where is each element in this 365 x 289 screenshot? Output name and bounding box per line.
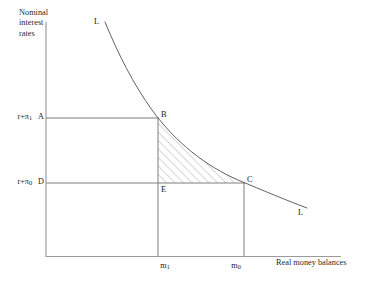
point-label-b: B (161, 110, 167, 120)
y-tick-low-base: r+ (17, 177, 24, 186)
y-tick-label-low: r+π0D (4, 177, 44, 187)
point-label-c: C (247, 175, 253, 185)
money-demand-figure: Nominalinterestrates r+π1A r+π0D m1 m0 R… (0, 0, 365, 289)
x-axis-title: Real money balances (276, 258, 347, 268)
curve-label-upper: L (94, 17, 99, 27)
x-tick-m0-subscript: 0 (238, 263, 241, 270)
y-tick-low-subscript: 0 (29, 179, 32, 186)
point-label-e: E (161, 185, 166, 195)
y-tick-label-high: r+π1A (4, 112, 44, 122)
x-tick-m1-subscript: 1 (167, 263, 170, 270)
y-tick-high-base: r+ (17, 112, 24, 121)
y-axis-title-line-3: rates (19, 29, 35, 38)
y-axis-title-line-2: interest (19, 18, 43, 27)
y-axis-title-line-1: Nominal (19, 8, 48, 17)
x-tick-label-m0: m0 (223, 261, 249, 271)
chart-canvas (0, 0, 365, 289)
curve-label-lower: L (298, 208, 303, 218)
y-tick-high-subscript: 1 (29, 114, 32, 121)
x-tick-label-m1: m1 (152, 261, 178, 271)
shaded-welfare-cost-region (158, 118, 244, 183)
point-label-a: A (38, 112, 44, 122)
point-label-d: D (38, 177, 44, 187)
y-axis-title: Nominalinterestrates (19, 8, 81, 39)
